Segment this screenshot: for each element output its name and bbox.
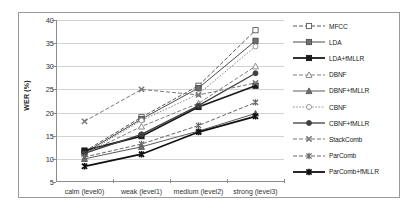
data-point-marker (253, 99, 258, 105)
x-tick-mark (227, 179, 228, 183)
y-tick-label: 5 (28, 178, 54, 187)
series-mfcc (82, 28, 258, 154)
y-axis-tick-labels: 510152025303540 (22, 0, 54, 210)
y-tick-mark (52, 159, 56, 160)
legend-item-lda[interactable]: LDA (292, 34, 402, 50)
x-tick-label: strong (level3) (233, 188, 277, 195)
legend-item-mfcc[interactable]: MFCC (292, 18, 402, 34)
legend-label: StackComb (326, 136, 362, 143)
wer-line-chart: WER (%) 510152025303540 calm (level0)wea… (0, 0, 418, 210)
y-tick-mark (52, 182, 56, 183)
legend-item-parcomb-fmllr[interactable]: ParComb+fMLLR (292, 164, 402, 180)
data-point-marker (196, 103, 201, 108)
legend-sample-asterisk-bold (292, 166, 326, 178)
x-tick-mark (170, 179, 171, 183)
y-tick-label: 25 (28, 85, 54, 94)
data-point-marker (139, 123, 145, 129)
legend-label: LDA+fMLLR (326, 55, 364, 62)
x-tick-label: weak (level1) (121, 188, 162, 195)
y-tick-label: 35 (28, 39, 54, 48)
series-layer (56, 20, 284, 182)
legend-sample-square-half (292, 36, 326, 48)
legend-item-lda-fmllr[interactable]: LDA+fMLLR (292, 50, 402, 66)
legend-item-dbnf-fmllr[interactable]: DBNF+fMLLR (292, 83, 402, 99)
y-tick-label: 10 (28, 154, 54, 163)
data-point-marker (253, 63, 259, 69)
data-point-marker (253, 28, 258, 33)
y-tick-label: 15 (28, 131, 54, 140)
data-point-marker (253, 38, 258, 43)
series-lda (82, 38, 258, 155)
data-point-marker (82, 119, 87, 124)
legend-label: ParComb (326, 152, 356, 159)
legend-sample-square-filled (292, 52, 326, 64)
legend-sample-square-open (292, 20, 326, 32)
legend-item-stackcomb[interactable]: StackComb (292, 131, 402, 147)
y-tick-mark (52, 89, 56, 90)
legend-label: DBNF+fMLLR (326, 87, 369, 94)
legend-item-parcomb[interactable]: ParComb (292, 148, 402, 164)
y-tick-mark (52, 113, 56, 114)
legend-sample-triangle-half (292, 85, 326, 97)
y-tick-label: 40 (28, 16, 54, 25)
data-point-marker (306, 23, 311, 28)
legend-label: CBNF (326, 104, 347, 111)
data-point-marker (306, 40, 311, 45)
x-tick-label: medium (level2) (174, 188, 224, 195)
legend-sample-circle-open (292, 101, 326, 113)
legend-sample-asterisk (292, 150, 326, 162)
y-tick-label: 20 (28, 108, 54, 117)
data-point-marker (139, 118, 144, 123)
legend-label: MFCC (326, 23, 348, 30)
series-dbnf-fmllr (82, 110, 259, 161)
data-point-marker (139, 132, 144, 137)
y-tick-mark (52, 43, 56, 44)
legend-item-dbnf[interactable]: DBNF (292, 67, 402, 83)
y-tick-label: 30 (28, 62, 54, 71)
y-tick-mark (52, 20, 56, 21)
y-tick-mark (52, 136, 56, 137)
data-point-marker (307, 105, 312, 110)
x-tick-mark (113, 179, 114, 183)
data-point-marker (306, 56, 311, 61)
data-point-marker (196, 122, 201, 128)
data-point-marker (196, 85, 201, 90)
legend-sample-circle-filled (292, 117, 326, 129)
legend-sample-triangle-open (292, 69, 326, 81)
chart-legend: MFCCLDALDA+fMLLRDBNFDBNF+fMLLRCBNFCBNF+f… (292, 18, 402, 180)
data-point-marker (253, 44, 258, 49)
y-tick-mark (52, 66, 56, 67)
legend-sample-x-mark (292, 133, 326, 145)
data-point-marker (307, 121, 312, 126)
data-point-marker (253, 71, 258, 76)
legend-label: CBNF+fMLLR (326, 120, 369, 127)
x-tick-mark (284, 179, 285, 183)
x-tick-label: calm (level0) (65, 188, 105, 195)
x-axis-tick-labels: calm (level0)weak (level1)medium (level2… (56, 186, 284, 200)
legend-label: ParComb+fMLLR (326, 168, 379, 175)
legend-label: DBNF (326, 71, 347, 78)
legend-item-cbnf[interactable]: CBNF (292, 99, 402, 115)
legend-label: LDA (326, 39, 342, 46)
legend-item-cbnf-fmllr[interactable]: CBNF+fMLLR (292, 115, 402, 131)
plot-area (56, 20, 284, 182)
